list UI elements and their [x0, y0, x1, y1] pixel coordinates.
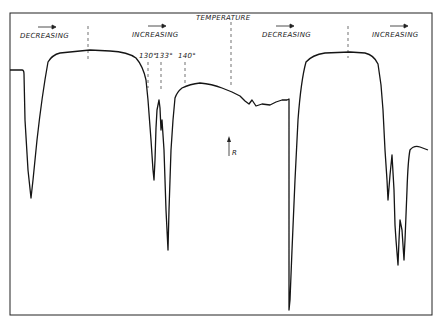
- r-arrow-icon: [227, 136, 231, 156]
- temp-label-133: 133°: [155, 52, 173, 60]
- r-label: R: [232, 149, 237, 157]
- spectrum-trace: [10, 50, 428, 310]
- chart-frame: [10, 13, 432, 315]
- direction-arrows: [38, 24, 408, 29]
- chart-title: TEMPERATURE: [196, 14, 251, 22]
- chart-canvas: [0, 0, 441, 323]
- spectrum-chart: TEMPERATURE DECREASING INCREASING DECREA…: [0, 0, 441, 323]
- segment-label-4: INCREASING: [372, 31, 418, 39]
- temp-label-140: 140°: [178, 52, 196, 60]
- segment-label-1: DECREASING: [20, 32, 69, 40]
- segment-label-2: INCREASING: [132, 31, 178, 39]
- segment-label-3: DECREASING: [262, 31, 311, 39]
